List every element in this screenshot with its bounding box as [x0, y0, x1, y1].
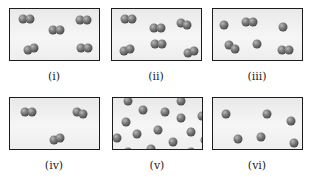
- atom-icon: [83, 44, 92, 53]
- atom-icon: [25, 15, 34, 24]
- panel-3: [212, 8, 303, 61]
- panel-label: (vi): [248, 159, 266, 172]
- atom-icon: [82, 16, 91, 25]
- panel-1: [9, 8, 100, 61]
- atom-icon: [154, 126, 163, 135]
- atom-icon: [126, 45, 135, 54]
- atom-icon: [290, 139, 299, 148]
- atom-icon: [169, 138, 178, 147]
- atom-icon: [183, 20, 192, 29]
- atom-icon: [147, 145, 156, 151]
- panel-6: [212, 97, 303, 150]
- atom-icon: [201, 136, 204, 145]
- atom-icon: [27, 108, 36, 117]
- atom-icon: [287, 117, 296, 126]
- atom-icon: [248, 18, 257, 27]
- atom-icon: [284, 46, 293, 55]
- atom-icon: [156, 24, 165, 33]
- panel-label: (ii): [148, 70, 164, 83]
- panel-5: [112, 97, 203, 150]
- atom-icon: [79, 110, 88, 119]
- atom-icon: [161, 108, 170, 117]
- atom-icon: [177, 97, 186, 106]
- atom-icon: [231, 44, 240, 53]
- panel-label: (iii): [247, 70, 266, 83]
- atom-icon: [253, 40, 262, 49]
- atom-icon: [187, 148, 196, 151]
- atom-icon: [222, 110, 231, 119]
- atom-icon: [124, 97, 133, 106]
- atom-icon: [127, 15, 136, 24]
- atom-icon: [157, 40, 166, 49]
- atom-icon: [122, 118, 131, 127]
- atom-icon: [187, 128, 196, 137]
- panel-4: [9, 97, 100, 150]
- atom-icon: [257, 133, 266, 142]
- panel-label: (i): [48, 70, 60, 83]
- atom-icon: [56, 133, 65, 142]
- atom-icon: [113, 134, 122, 143]
- atom-icon: [133, 130, 142, 139]
- atom-icon: [30, 44, 39, 53]
- atom-icon: [139, 106, 148, 115]
- atom-icon: [198, 112, 204, 121]
- atom-icon: [124, 148, 133, 151]
- atom-icon: [220, 21, 229, 30]
- atom-icon: [55, 26, 64, 35]
- atom-icon: [263, 110, 272, 119]
- atom-icon: [234, 135, 243, 144]
- panel-label: (v): [150, 159, 165, 172]
- atom-icon: [279, 23, 288, 32]
- atom-icon: [177, 114, 186, 123]
- panel-2: [111, 8, 202, 61]
- panel-label: (iv): [45, 159, 63, 172]
- atom-icon: [190, 47, 199, 56]
